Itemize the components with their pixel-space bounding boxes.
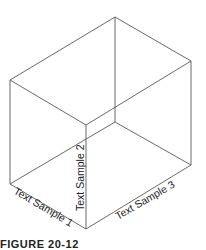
figure-caption: FIGURE 20-12 [0,238,79,250]
label-text-sample-2: Text Sample 2 [74,144,86,211]
label-text-sample-3: Text Sample 3 [113,178,177,222]
label-text-sample-1: Text Sample 1 [12,184,76,228]
